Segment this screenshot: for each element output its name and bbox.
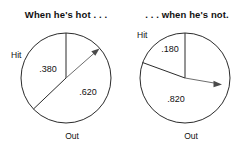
- sector-label-hit-hot: Hit: [11, 50, 22, 60]
- pie-chart-hot: When he's hot . . . Hit Out .380 .620: [11, 9, 111, 141]
- sector-value-hit-not: .180: [161, 44, 179, 54]
- sector-label-out-not: Out: [184, 131, 198, 141]
- sector-value-out-hot: .620: [79, 87, 97, 97]
- chart-title-not: . . . when he's not.: [145, 9, 228, 20]
- sector-value-out-not: .820: [167, 94, 185, 104]
- sector-value-hit-hot: .380: [39, 64, 57, 74]
- pie-chart-not: . . . when he's not. Hit Out .180 .820: [137, 9, 230, 141]
- two-pie-spinner-figure: When he's hot . . . Hit Out .380 .620 . …: [0, 0, 247, 147]
- sector-label-out-hot: Out: [65, 131, 79, 141]
- chart-title-hot: When he's hot . . .: [25, 9, 107, 20]
- sector-label-hit-not: Hit: [137, 30, 148, 40]
